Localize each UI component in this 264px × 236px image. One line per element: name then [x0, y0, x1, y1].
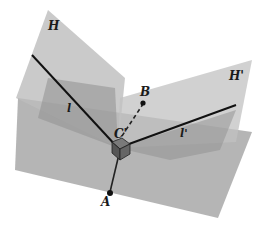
label-b: B	[139, 85, 150, 99]
label-c-prime: C'	[114, 127, 127, 141]
label-a: A	[100, 195, 110, 209]
label-l: l	[67, 102, 71, 115]
dihedral-diagram: H H' l l' B C' A	[0, 0, 264, 236]
point-b	[140, 100, 145, 105]
label-h: H	[47, 19, 60, 33]
label-h-prime: H'	[228, 69, 244, 83]
label-l-prime: l'	[180, 127, 188, 140]
